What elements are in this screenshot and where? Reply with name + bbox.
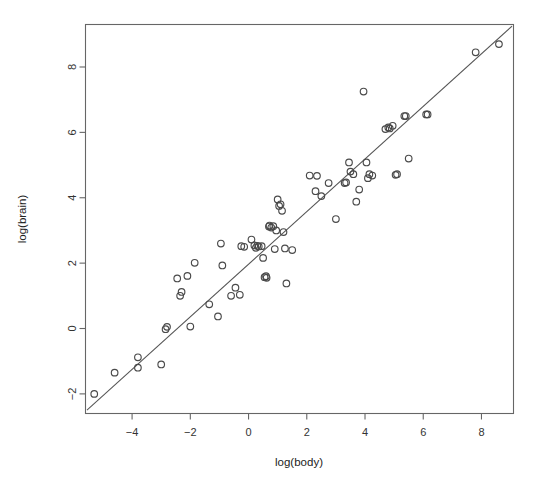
data-point (184, 273, 191, 280)
data-point (215, 313, 222, 320)
plot-svg: −4−202468 −202468 log(body) log(brain) (0, 0, 540, 495)
data-point (91, 391, 98, 398)
data-point (260, 255, 267, 262)
data-point (289, 247, 296, 254)
data-point (219, 262, 226, 269)
data-point (306, 172, 313, 179)
y-tick-label: 6 (67, 129, 79, 135)
data-point (232, 284, 239, 291)
data-point (282, 245, 289, 252)
data-point (191, 260, 198, 267)
data-point (356, 186, 363, 193)
x-tick-label: 4 (362, 426, 368, 438)
x-tick-label: 6 (420, 426, 426, 438)
data-point (496, 41, 503, 48)
y-axis-title: log(brain) (16, 195, 28, 244)
data-point (158, 361, 165, 368)
data-point (279, 208, 286, 215)
data-point (363, 159, 370, 166)
data-point (333, 216, 340, 223)
y-tick-label: 0 (67, 325, 79, 331)
x-tick-label: −4 (126, 426, 139, 438)
x-tick-label: 0 (245, 426, 251, 438)
data-point (405, 155, 412, 162)
y-axis-ticks: −202468 (67, 64, 86, 400)
regression-line (87, 26, 512, 410)
data-point (178, 289, 185, 296)
data-point (353, 198, 360, 205)
data-point (237, 292, 244, 299)
x-tick-label: 2 (304, 426, 310, 438)
data-point (164, 324, 171, 331)
scatter-plot-figure: −4−202468 −202468 log(body) log(brain) (0, 0, 540, 495)
data-point (135, 364, 142, 371)
data-point (218, 240, 225, 247)
x-tick-label: −2 (184, 426, 197, 438)
data-point (360, 88, 367, 95)
data-point (277, 201, 284, 208)
data-point (177, 293, 184, 300)
data-point (314, 173, 321, 180)
data-point (206, 301, 213, 308)
data-point (271, 246, 278, 253)
data-point (228, 293, 235, 300)
y-tick-label: 2 (67, 260, 79, 266)
x-axis-ticks: −4−202468 (126, 414, 485, 438)
data-point (346, 159, 353, 166)
data-point (111, 369, 118, 376)
y-tick-label: 4 (67, 195, 79, 201)
x-axis-title: log(body) (275, 456, 323, 468)
y-tick-label: 8 (67, 64, 79, 70)
data-point (187, 323, 194, 330)
data-point (135, 354, 142, 361)
data-point (312, 188, 319, 195)
data-point (283, 280, 290, 287)
x-tick-label: 8 (478, 426, 484, 438)
reference-line-segment (87, 26, 512, 410)
data-point (274, 196, 281, 203)
y-tick-label: −2 (67, 388, 79, 401)
data-point (472, 49, 479, 56)
data-point (325, 180, 332, 187)
data-points (91, 41, 502, 397)
data-point (174, 275, 181, 282)
